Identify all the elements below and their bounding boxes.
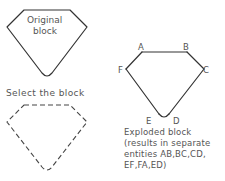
segment-bc — [187, 52, 204, 69]
caption-line: Exploded block — [124, 127, 210, 138]
selected-block-shape — [7, 105, 87, 170]
exploded-block-caption: Exploded block (results in separate enti… — [124, 127, 210, 171]
original-block-label-line2: block — [33, 26, 57, 37]
select-block-caption: Select the block — [6, 87, 85, 99]
segment-ef — [126, 69, 159, 114]
original-block-label-line1: Original — [27, 15, 62, 26]
vertex-label-c: C — [203, 65, 209, 75]
vertex-label-e: E — [146, 116, 151, 126]
vertex-label-d: D — [173, 116, 180, 126]
vertex-label-a: A — [138, 42, 144, 52]
caption-line: entities AB,BC,CD, — [124, 149, 210, 160]
exploded-block-shape — [126, 52, 204, 117]
segment-fa — [126, 52, 142, 69]
caption-line: EF,FA,ED) — [124, 160, 210, 171]
vertex-label-b: B — [183, 42, 189, 52]
vertex-label-f: F — [118, 65, 123, 75]
segment-cd — [169, 69, 204, 114]
segment-ed — [159, 114, 169, 117]
caption-line: (results in separate — [124, 138, 210, 149]
